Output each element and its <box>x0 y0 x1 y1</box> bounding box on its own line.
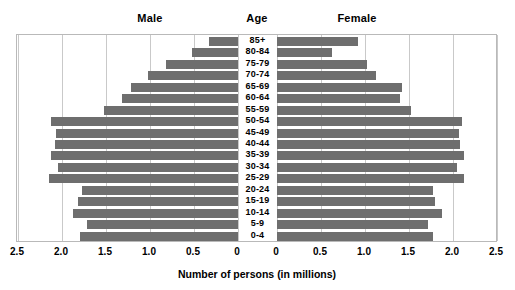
pyramid-row: 75-79 <box>17 59 496 70</box>
x-tick-label: 1.5 <box>401 246 415 257</box>
age-group-label: 5-9 <box>238 218 277 229</box>
female-bar <box>277 48 332 57</box>
female-bar <box>277 140 460 149</box>
female-bar <box>277 94 400 103</box>
pyramid-row: 55-59 <box>17 105 496 116</box>
female-bar <box>277 71 376 80</box>
female-bar <box>277 197 435 206</box>
x-tick-label: 2.0 <box>54 246 68 257</box>
age-group-label: 20-24 <box>238 184 277 195</box>
male-bar <box>148 71 238 80</box>
x-axis-title: Number of persons (in millions) <box>178 268 336 280</box>
male-bar <box>104 106 238 115</box>
pyramid-row: 30-34 <box>17 162 496 173</box>
age-group-label: 85+ <box>238 35 277 46</box>
female-bar <box>277 232 433 241</box>
x-tick-label: 1.5 <box>98 246 112 257</box>
x-tick-label: 1.0 <box>357 246 371 257</box>
pyramid-row: 25-29 <box>17 173 496 184</box>
pyramid-row: 20-24 <box>17 185 496 196</box>
x-tick-label: 0.5 <box>313 246 327 257</box>
male-bar <box>49 174 238 183</box>
male-bar <box>78 197 238 206</box>
pyramid-rows: 85+80-8475-7970-7465-6960-6455-5950-5445… <box>17 35 496 241</box>
x-tick-label: 0 <box>273 246 279 257</box>
age-group-label: 25-29 <box>238 172 277 183</box>
female-bar <box>277 220 428 229</box>
age-group-label: 40-44 <box>238 138 277 149</box>
male-bar <box>58 163 238 172</box>
plot-area: 85+80-8475-7970-7465-6960-6455-5950-5445… <box>16 34 497 242</box>
female-bar <box>277 117 462 126</box>
female-bar <box>277 151 464 160</box>
pyramid-row: 60-64 <box>17 93 496 104</box>
age-group-label: 55-59 <box>238 104 277 115</box>
age-column-header: Age <box>246 12 267 24</box>
age-group-label: 0-4 <box>238 230 277 241</box>
pyramid-row: 70-74 <box>17 70 496 81</box>
female-bar <box>277 106 411 115</box>
pyramid-row: 85+ <box>17 36 496 47</box>
age-group-label: 80-84 <box>238 46 277 57</box>
male-bar <box>166 60 238 69</box>
female-bar <box>277 60 367 69</box>
female-bar <box>277 163 457 172</box>
x-tick-label: 2.5 <box>10 246 24 257</box>
pyramid-row: 80-84 <box>17 47 496 58</box>
age-group-label: 65-69 <box>238 81 277 92</box>
male-bar <box>73 209 238 218</box>
population-pyramid-chart: Male Age Female 85+80-8475-7970-7465-696… <box>0 0 515 290</box>
male-bar <box>82 186 238 195</box>
male-column-header: Male <box>137 12 162 24</box>
age-group-label: 50-54 <box>238 115 277 126</box>
female-bar <box>277 209 442 218</box>
age-group-label: 35-39 <box>238 149 277 160</box>
female-column-header: Female <box>337 12 376 24</box>
age-group-label: 15-19 <box>238 195 277 206</box>
pyramid-row: 10-14 <box>17 208 496 219</box>
female-bar <box>277 83 402 92</box>
pyramid-row: 15-19 <box>17 196 496 207</box>
age-group-label: 70-74 <box>238 69 277 80</box>
pyramid-row: 45-49 <box>17 128 496 139</box>
male-bar <box>51 117 238 126</box>
pyramid-row: 40-44 <box>17 139 496 150</box>
x-tick-label: 0.5 <box>186 246 200 257</box>
age-group-label: 10-14 <box>238 207 277 218</box>
pyramid-row: 0-4 <box>17 231 496 242</box>
male-bar <box>55 140 238 149</box>
pyramid-row: 65-69 <box>17 82 496 93</box>
age-group-label: 75-79 <box>238 58 277 69</box>
male-bar <box>56 129 238 138</box>
male-bar <box>80 232 238 241</box>
pyramid-row: 5-9 <box>17 219 496 230</box>
female-bar <box>277 37 358 46</box>
pyramid-row: 50-54 <box>17 116 496 127</box>
age-group-label: 30-34 <box>238 161 277 172</box>
age-group-label: 60-64 <box>238 92 277 103</box>
age-group-label: 45-49 <box>238 127 277 138</box>
pyramid-row: 35-39 <box>17 150 496 161</box>
x-tick-label: 2.0 <box>445 246 459 257</box>
x-tick-label: 2.5 <box>489 246 503 257</box>
male-bar <box>192 48 238 57</box>
x-tick-label: 1.0 <box>142 246 156 257</box>
male-bar <box>131 83 238 92</box>
male-bar <box>87 220 238 229</box>
gridline <box>497 35 498 241</box>
female-bar <box>277 186 433 195</box>
male-bar <box>209 37 238 46</box>
female-bar <box>277 174 464 183</box>
male-bar <box>122 94 238 103</box>
male-bar <box>51 151 238 160</box>
female-bar <box>277 129 459 138</box>
x-tick-label: 0 <box>234 246 240 257</box>
